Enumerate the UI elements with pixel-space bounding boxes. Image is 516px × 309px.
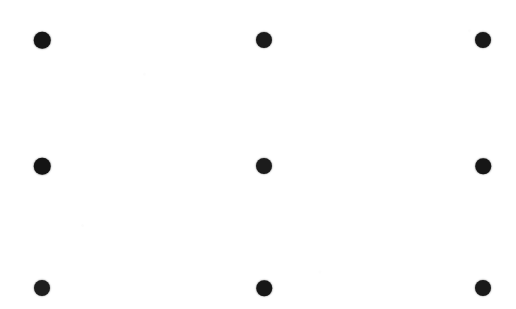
dot-r2-c3 xyxy=(475,158,491,174)
dot-r2-c2 xyxy=(256,158,272,174)
dot-r3-c3 xyxy=(475,280,491,296)
dot-r2-c1 xyxy=(34,158,51,175)
dot-r3-c2 xyxy=(256,280,272,296)
dot-r1-c1 xyxy=(34,32,51,49)
dot-r1-c3 xyxy=(475,32,491,48)
dot-r3-c1 xyxy=(34,280,50,296)
dot-grid-canvas xyxy=(0,0,516,309)
dot-r1-c2 xyxy=(256,32,272,48)
paper-grain-overlay xyxy=(0,0,516,309)
